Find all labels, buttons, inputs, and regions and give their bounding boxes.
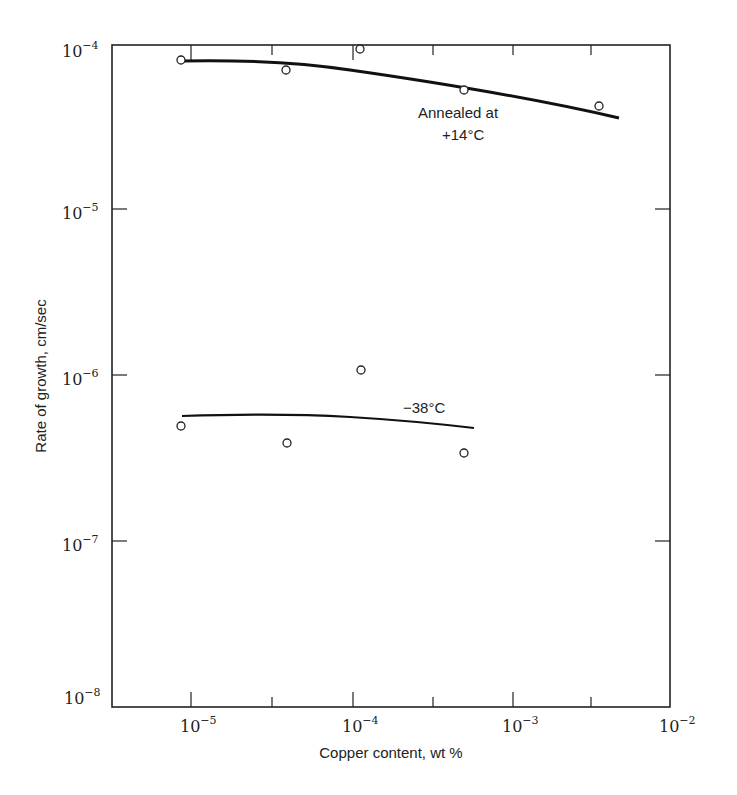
x-axis-title: Copper content, wt % — [319, 744, 462, 761]
fit-curve-plus14 — [181, 61, 619, 118]
annotation-minus38: −38°C — [403, 399, 445, 416]
svg-text:10−4: 10−4 — [342, 714, 379, 736]
svg-text:10−2: 10−2 — [659, 714, 696, 736]
data-point — [460, 86, 468, 94]
plot-frame — [112, 45, 670, 707]
svg-text:10−4: 10−4 — [62, 39, 99, 61]
data-point — [282, 66, 290, 74]
data-point — [177, 422, 185, 430]
svg-text:10−3: 10−3 — [502, 714, 539, 736]
svg-text:10−5: 10−5 — [62, 201, 99, 223]
svg-text:10−5: 10−5 — [180, 714, 217, 736]
chart: 10−4 10−5 10−6 10−7 10−8 10−5 10−4 10−3 … — [0, 0, 737, 795]
data-point — [283, 439, 291, 447]
data-point — [460, 449, 468, 457]
x-tick-labels: 10−5 10−4 10−3 10−2 — [180, 714, 696, 736]
y-tick-labels: 10−4 10−5 10−6 10−7 10−8 — [62, 39, 101, 708]
annotation-plus14-line1: Annealed at — [418, 104, 499, 121]
data-point — [177, 56, 185, 64]
svg-text:10−7: 10−7 — [62, 533, 99, 555]
data-point — [356, 45, 364, 53]
fit-curve-minus38 — [182, 415, 474, 428]
data-point — [357, 366, 365, 374]
data-point — [595, 102, 603, 110]
y-axis-title: Rate of growth, cm/sec — [32, 299, 49, 453]
annotation-plus14-line2: +14°C — [442, 126, 484, 143]
x-axis-ticks — [191, 45, 591, 707]
y-axis-ticks — [112, 209, 670, 541]
svg-text:10−8: 10−8 — [64, 686, 101, 708]
svg-text:10−6: 10−6 — [62, 367, 99, 389]
